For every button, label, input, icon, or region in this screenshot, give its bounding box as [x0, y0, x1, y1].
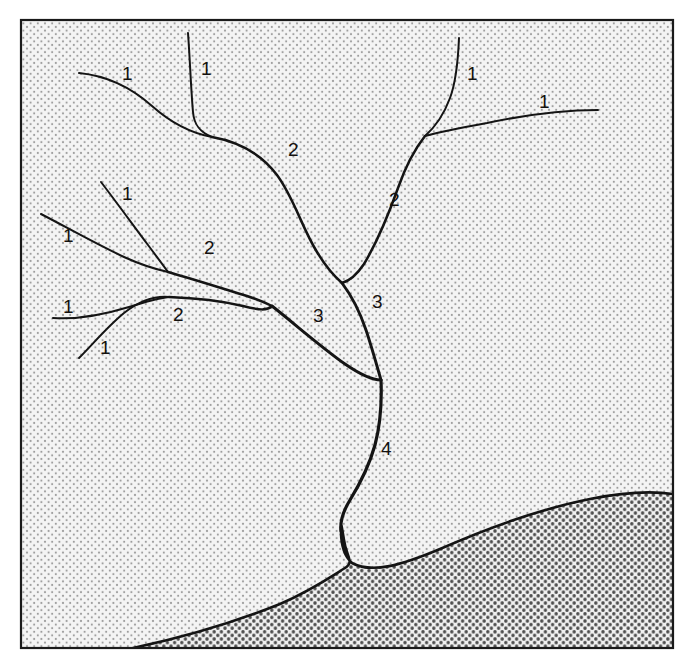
stream-order-label-1: 1: [63, 225, 74, 246]
stream-order-label-1: 1: [122, 183, 133, 204]
stream-order-label-1: 1: [122, 63, 133, 84]
stream-order-label-3: 3: [313, 305, 324, 326]
stream-order-label-2: 2: [204, 237, 215, 258]
stream-order-label-2: 2: [288, 139, 299, 160]
stream-order-label-1: 1: [539, 91, 550, 112]
stream-order-label-1: 1: [100, 337, 111, 358]
stream-order-label-1: 1: [63, 296, 74, 317]
stream-order-label-3: 3: [372, 291, 383, 312]
stream-order-label-1: 1: [201, 58, 212, 79]
stream-order-label-4: 4: [381, 438, 392, 459]
stream-order-label-2: 2: [389, 189, 400, 210]
stream-order-figure: 111111112222334: [0, 0, 691, 662]
stream-order-label-1: 1: [467, 63, 478, 84]
map-body: 111111112222334: [21, 20, 673, 648]
map-canvas: 111111112222334: [0, 0, 691, 662]
stream-order-label-2: 2: [173, 304, 184, 325]
